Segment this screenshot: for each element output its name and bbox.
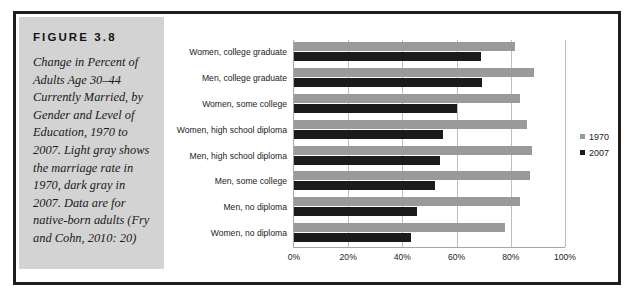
- bar-1970: [294, 68, 534, 77]
- bar-2007: [294, 233, 411, 242]
- category-label: Men, college graduate: [202, 73, 287, 83]
- category-label: Men, some college: [215, 176, 287, 186]
- bar-group: Women, high school diploma: [294, 120, 565, 146]
- chart-legend: 19702007: [580, 130, 609, 162]
- bar-1970: [294, 120, 527, 129]
- x-axis-tick-label: 100%: [554, 252, 576, 262]
- bar-2007: [294, 156, 440, 165]
- bar-2007: [294, 207, 417, 216]
- bar-group: Men, no diploma: [294, 197, 565, 223]
- bar-1970: [294, 171, 530, 180]
- plot-area: 0%20%40%60%80%100%Women, college graduat…: [293, 40, 565, 248]
- figure-caption-text: Change in Percent of Adults Age 30–44 Cu…: [33, 54, 151, 248]
- bar-group: Men, college graduate: [294, 68, 565, 94]
- gridline: [565, 40, 566, 247]
- legend-swatch-icon: [580, 150, 585, 155]
- category-label: Women, high school diploma: [177, 125, 287, 135]
- x-axis-tick-label: 20%: [340, 252, 357, 262]
- bar-2007: [294, 181, 435, 190]
- x-axis-tick-label: 0%: [288, 252, 300, 262]
- category-label: Men, no diploma: [223, 202, 287, 212]
- x-axis-tick-label: 40%: [394, 252, 411, 262]
- bar-2007: [294, 52, 481, 61]
- category-label: Men, high school diploma: [190, 151, 287, 161]
- legend-item: 1970: [580, 130, 609, 143]
- category-label: Women, no diploma: [211, 228, 287, 238]
- bar-group: Men, some college: [294, 171, 565, 197]
- legend-swatch-icon: [580, 134, 585, 139]
- bar-2007: [294, 130, 443, 139]
- bar-group: Women, college graduate: [294, 42, 565, 68]
- bar-1970: [294, 197, 520, 206]
- category-label: Women, some college: [202, 99, 287, 109]
- bar-2007: [294, 104, 457, 113]
- bar-2007: [294, 78, 482, 87]
- bar-group: Women, no diploma: [294, 223, 565, 249]
- legend-item: 2007: [580, 146, 609, 159]
- bar-1970: [294, 223, 505, 232]
- figure-page: FIGURE 3.8 Change in Percent of Adults A…: [0, 0, 634, 297]
- figure-frame: FIGURE 3.8 Change in Percent of Adults A…: [13, 11, 621, 285]
- category-label: Women, college graduate: [189, 47, 287, 57]
- bar-group: Women, some college: [294, 94, 565, 120]
- figure-number-label: FIGURE 3.8: [33, 31, 151, 43]
- chart-area: 0%20%40%60%80%100%Women, college graduat…: [168, 17, 615, 279]
- legend-label: 2007: [589, 148, 609, 158]
- x-axis-tick-label: 80%: [502, 252, 519, 262]
- bar-group: Men, high school diploma: [294, 146, 565, 172]
- caption-panel: FIGURE 3.8 Change in Percent of Adults A…: [19, 17, 164, 269]
- bar-1970: [294, 42, 515, 51]
- x-axis-tick-label: 60%: [448, 252, 465, 262]
- legend-label: 1970: [589, 132, 609, 142]
- bar-1970: [294, 94, 520, 103]
- bar-1970: [294, 146, 532, 155]
